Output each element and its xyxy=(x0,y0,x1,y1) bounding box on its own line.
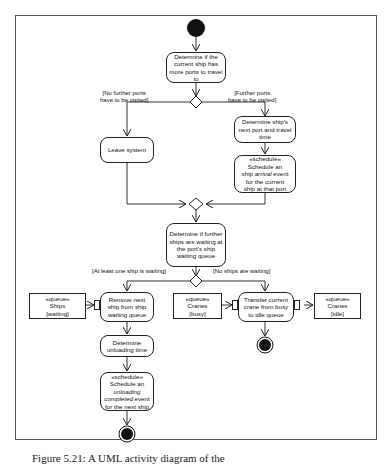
object-state: [waiting] xyxy=(46,310,69,317)
object-ships-waiting: «queue» Ships [waiting] xyxy=(29,293,86,319)
object-name: Ships xyxy=(50,302,65,309)
guard-line: [No ships are waiting] xyxy=(213,268,270,275)
action-label: ship arrival event xyxy=(242,170,289,177)
text: event xyxy=(133,395,150,402)
action-unloading-time: Determine unloading time xyxy=(100,335,154,357)
stereotype-label: «queue» xyxy=(325,295,349,302)
object-name: Cranes xyxy=(328,302,348,309)
action-label: Schedule an xyxy=(248,163,282,170)
action-label: Determine if further ships are waiting a… xyxy=(169,230,223,260)
guard-line: have to be visited] xyxy=(228,97,276,104)
object-cranes-idle: «queue» Cranes [idle] xyxy=(314,293,361,319)
object-name: Cranes xyxy=(188,302,208,309)
final-node-crane xyxy=(257,337,273,353)
output-pin-transfer xyxy=(294,300,300,310)
action-label: Determine unloading time xyxy=(103,339,151,354)
action-label: for the next ship xyxy=(105,403,149,410)
action-label: unloading completed event xyxy=(103,388,151,403)
stereotype-label: «schedule» xyxy=(111,373,143,380)
stereotype-label: «queue» xyxy=(45,295,69,302)
guard-at-least-one: [At least one ship is waiting] xyxy=(92,268,166,275)
action-label: Determine if the current ship has more p… xyxy=(169,53,223,83)
event-name: arrival xyxy=(255,170,272,177)
guard-further-ports: [Further ports have to be visited] xyxy=(228,90,276,104)
decision-ships-waiting xyxy=(190,275,202,287)
guard-line: have to be visited] xyxy=(100,97,148,104)
action-label: Schedule an xyxy=(110,380,144,387)
action-label: for the current xyxy=(246,178,285,185)
action-schedule-unloading: «schedule» Schedule an unloading complet… xyxy=(100,372,154,411)
action-next-port: Determine ship's next port and travel ti… xyxy=(234,116,296,143)
action-label: Leave system xyxy=(108,146,146,153)
action-label: Remove next ship from ship waiting queue xyxy=(103,296,151,318)
initial-node xyxy=(187,19,205,37)
text: ship xyxy=(242,170,255,177)
merge-node xyxy=(189,198,203,210)
object-state: [busy] xyxy=(189,310,206,317)
text: event xyxy=(272,170,289,177)
guard-line: [No further ports xyxy=(100,90,148,97)
action-schedule-arrival: «schedule» Schedule an ship arrival even… xyxy=(234,155,296,193)
guard-no-ships: [No ships are waiting] xyxy=(213,268,270,275)
guard-no-further-ports: [No further ports have to be visited] xyxy=(100,90,148,104)
guard-line: [At least one ship is waiting] xyxy=(92,268,166,275)
figure-caption: Figure 5.21: A UML activity diagram of t… xyxy=(32,452,225,464)
object-cranes-busy: «queue» Cranes [busy] xyxy=(173,293,222,319)
action-leave-system: Leave system xyxy=(100,137,154,163)
object-state: [idle] xyxy=(331,310,344,317)
decision-more-ports xyxy=(190,96,202,108)
action-label: Determine ship's next port and travel ti… xyxy=(237,118,293,140)
action-remove-ship: Remove next ship from ship waiting queue xyxy=(100,292,154,322)
guard-line: [Further ports xyxy=(228,90,276,97)
action-check-waiting: Determine if further ships are waiting a… xyxy=(166,223,226,267)
stereotype-label: «schedule» xyxy=(249,155,281,162)
final-node-unloading xyxy=(119,426,135,442)
action-transfer-crane: Transfer current crane from busy to idle… xyxy=(238,292,294,322)
stereotype-label: «queue» xyxy=(185,295,209,302)
action-check-more-ports: Determine if the current ship has more p… xyxy=(166,52,226,83)
action-label: ship at that port xyxy=(244,185,287,192)
action-label: Transfer current crane from busy to idle… xyxy=(241,296,291,318)
